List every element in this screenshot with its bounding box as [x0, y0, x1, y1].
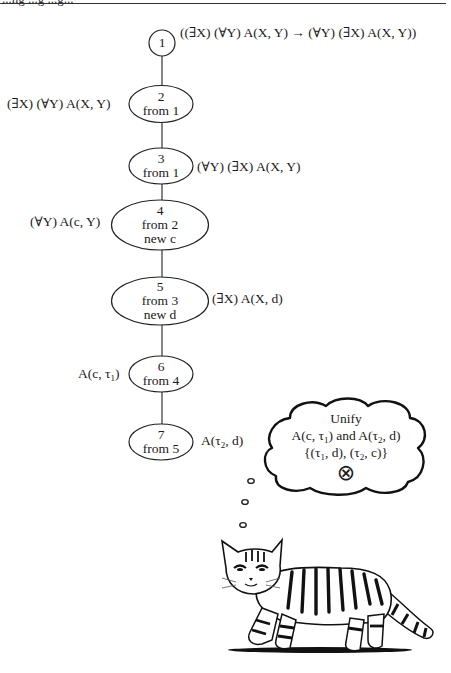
- node-2-formula: (∃X) (∀Y) A(X, Y): [7, 96, 110, 112]
- node-6-label: 6 from 4: [129, 360, 193, 388]
- node-5-label: 5 from 3 new d: [112, 280, 208, 322]
- node-1-formula: ((∃X) (∀Y) A(X, Y) → (∀Y) (∃X) A(X, Y)): [180, 25, 416, 41]
- node-7-label: 7 from 5: [129, 428, 193, 456]
- node-6-formula: A(c, τ1): [78, 366, 119, 382]
- node-3-label: 3 from 1: [129, 152, 193, 180]
- thought-trail: [240, 479, 254, 528]
- node-3-formula: (∀Y) (∃X) A(X, Y): [197, 159, 300, 175]
- circled-times-icon: ⊗: [276, 461, 416, 485]
- node-4-formula: (∀Y) A(c, Y): [30, 214, 100, 230]
- unify-substitution: {(τ1, d), (τ2, c)}: [276, 445, 416, 461]
- node-5-formula: (∃X) A(X, d): [212, 291, 283, 307]
- node-2-label: 2 from 1: [129, 90, 193, 118]
- node-7-formula: A(τ2, d): [201, 433, 243, 449]
- unify-terms: A(c, τ1) and A(τ2, d): [276, 428, 416, 444]
- tabby-cat-icon: [222, 540, 433, 653]
- node-1-label: 1: [149, 36, 175, 50]
- unify-heading: Unify: [276, 411, 416, 427]
- node-4-label: 4 from 2 new c: [112, 204, 208, 246]
